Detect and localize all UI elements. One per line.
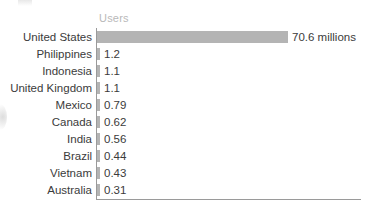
- bar-track: [97, 82, 100, 94]
- bar-row: United States70.6 millions: [0, 29, 367, 46]
- category-label: Australia: [47, 184, 92, 197]
- bar-row: Brazil0.44: [0, 148, 367, 165]
- category-label: Indonesia: [42, 65, 92, 78]
- bar: [97, 150, 100, 162]
- category-label: Mexico: [56, 99, 92, 112]
- bar-value-label: 1.2: [104, 48, 120, 61]
- bar-row: India0.56: [0, 131, 367, 148]
- category-label: India: [67, 133, 92, 146]
- bar-chart: Users United States70.6 millionsPhilippi…: [0, 0, 367, 214]
- bar-value-label: 0.31: [104, 184, 126, 197]
- bar-value-label: 70.6 millions: [292, 31, 356, 44]
- bar-row: Canada0.62: [0, 114, 367, 131]
- bar-row: Philippines1.2: [0, 46, 367, 63]
- bar-value-label: 1.1: [104, 65, 120, 78]
- bar-row: United Kingdom1.1: [0, 80, 367, 97]
- bar-track: [97, 133, 100, 145]
- bar-track: [97, 65, 100, 77]
- bar-value-label: 0.56: [104, 133, 126, 146]
- category-label: Canada: [52, 116, 92, 129]
- bar-track: [97, 99, 100, 111]
- category-label: Philippines: [36, 48, 92, 61]
- category-label: United Kingdom: [10, 82, 92, 95]
- category-label: Brazil: [63, 150, 92, 163]
- bar: [97, 48, 100, 60]
- bar-track: [97, 167, 100, 179]
- bar-track: [97, 184, 100, 196]
- value-column-header: Users: [99, 12, 129, 24]
- bar-row: Mexico0.79: [0, 97, 367, 114]
- bar-row: Australia0.31: [0, 182, 367, 199]
- bar: [97, 116, 100, 128]
- bar-rows: United States70.6 millionsPhilippines1.2…: [0, 29, 367, 199]
- bar-value-label: 0.43: [104, 167, 126, 180]
- bar-value-label: 0.62: [104, 116, 126, 129]
- category-label: Vietnam: [50, 167, 92, 180]
- scan-artifact-top-left: [18, 0, 32, 6]
- bar: [97, 31, 288, 43]
- bar: [97, 184, 100, 196]
- bar: [97, 65, 100, 77]
- bar: [97, 99, 100, 111]
- bar: [97, 133, 100, 145]
- bar-value-label: 0.44: [104, 150, 126, 163]
- bar-value-label: 0.79: [104, 99, 126, 112]
- bar-track: [97, 116, 100, 128]
- category-label: United States: [23, 31, 92, 44]
- bar-value-label: 1.1: [104, 82, 120, 95]
- bar-row: Indonesia1.1: [0, 63, 367, 80]
- bar: [97, 167, 100, 179]
- bar-track: [97, 31, 288, 43]
- bar-track: [97, 48, 100, 60]
- bar: [97, 82, 100, 94]
- bar-row: Vietnam0.43: [0, 165, 367, 182]
- value-axis-line: [96, 199, 361, 200]
- bar-track: [97, 150, 100, 162]
